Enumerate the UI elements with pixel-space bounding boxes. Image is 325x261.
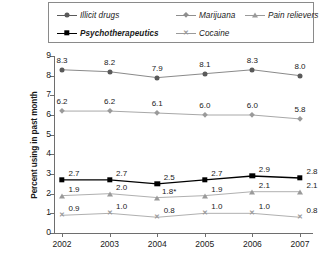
point-cocaine-2003: ✕ <box>106 209 114 217</box>
x-tick-label-2004: 2004 <box>148 239 167 249</box>
circle-glyph-icon <box>65 13 70 18</box>
square-point-icon <box>154 181 159 186</box>
diamond-point-icon <box>59 108 65 114</box>
point-illicit-drugs-2007 <box>296 72 304 80</box>
point-illicit-drugs-2002 <box>58 66 66 74</box>
triangle-point-icon <box>154 195 160 200</box>
point-illicit-drugs-2004 <box>153 74 161 82</box>
circle-point-icon <box>202 71 207 76</box>
data-label-illicit-drugs-2002: 8.3 <box>56 56 67 65</box>
square-marker-icon <box>57 27 77 39</box>
point-psychotherapeutics-2002 <box>58 176 66 184</box>
data-label-psychotherapeutics-2002: 2.7 <box>68 169 79 178</box>
triangle-point-icon <box>202 193 208 198</box>
diamond-point-icon <box>297 116 303 122</box>
x-tick-label-2007: 2007 <box>291 239 310 249</box>
data-label-pain-relievers-2003: 2.0 <box>116 183 127 192</box>
data-label-marijuana-2004: 6.1 <box>152 99 163 108</box>
point-pain-relievers-2006 <box>248 188 256 196</box>
x-tick-mark <box>62 233 63 237</box>
plot-area: Percent using in past month 0123456789 2… <box>54 56 312 233</box>
y-tick-label: 4 <box>37 148 51 158</box>
data-label-psychotherapeutics-2003: 2.7 <box>116 169 127 178</box>
circle-marker-icon <box>57 9 77 21</box>
legend-label: Cocaine <box>199 29 229 38</box>
legend-item-psychotherapeutics[interactable]: Psychotherapeutics <box>57 24 159 42</box>
point-cocaine-2005: ✕ <box>201 209 209 217</box>
point-pain-relievers-2005 <box>201 192 209 200</box>
point-cocaine-2004: ✕ <box>153 213 161 221</box>
y-tick-label: 8 <box>37 70 51 80</box>
data-label-psychotherapeutics-2006: 2.9 <box>259 165 270 174</box>
data-label-psychotherapeutics-2007: 2.8 <box>306 167 317 176</box>
chart-container: Illicit drugsMarijuanaPain relievers Psy… <box>0 0 325 261</box>
x-tick-label-2006: 2006 <box>243 239 262 249</box>
data-label-pain-relievers-2002: 1.9 <box>68 185 79 194</box>
y-tick-label: 9 <box>37 50 51 60</box>
triangle-point-icon <box>249 189 255 194</box>
data-label-marijuana-2005: 6.0 <box>199 101 210 110</box>
circle-point-icon <box>250 67 255 72</box>
diamond-point-icon <box>107 108 113 114</box>
diamond-glyph-icon <box>183 12 189 18</box>
circle-point-icon <box>298 73 303 78</box>
point-illicit-drugs-2006 <box>248 66 256 74</box>
legend-label: Marijuana <box>199 11 235 20</box>
data-label-pain-relievers-2005: 1.9 <box>211 185 222 194</box>
y-tick: 0 <box>54 233 58 234</box>
point-psychotherapeutics-2004 <box>153 180 161 188</box>
point-cocaine-2002: ✕ <box>58 211 66 219</box>
point-pain-relievers-2003 <box>106 190 114 198</box>
data-label-marijuana-2003: 6.2 <box>104 97 115 106</box>
chart-legend: Illicit drugsMarijuanaPain relievers Psy… <box>48 2 314 43</box>
x-point-icon: ✕ <box>59 212 65 218</box>
data-label-psychotherapeutics-2004: 2.5 <box>164 173 175 182</box>
triangle-glyph-icon <box>252 13 258 18</box>
legend-label: Illicit drugs <box>80 11 119 20</box>
point-marijuana-2007 <box>296 115 304 123</box>
square-point-icon <box>107 177 112 182</box>
circle-point-icon <box>60 67 65 72</box>
point-marijuana-2006 <box>248 111 256 119</box>
point-psychotherapeutics-2006 <box>248 172 256 180</box>
legend-item-pain-relievers[interactable]: Pain relievers <box>245 6 318 24</box>
x-point-icon: ✕ <box>297 214 303 220</box>
legend-item-marijuana[interactable]: Marijuana <box>176 6 235 24</box>
data-label-pain-relievers-2007: 2.1 <box>306 181 317 190</box>
point-psychotherapeutics-2007 <box>296 174 304 182</box>
x-marker-icon: ✕ <box>176 27 196 39</box>
y-tick-label: 5 <box>37 129 51 139</box>
x-tick-label-2005: 2005 <box>195 239 214 249</box>
square-point-icon <box>202 177 207 182</box>
x-tick-mark <box>300 233 301 237</box>
data-label-marijuana-2007: 5.8 <box>294 105 305 114</box>
legend-item-illicit-drugs[interactable]: Illicit drugs <box>57 6 119 24</box>
point-marijuana-2004 <box>153 109 161 117</box>
legend-item-cocaine[interactable]: ✕Cocaine <box>176 24 229 42</box>
diamond-point-icon <box>154 110 160 116</box>
data-label-illicit-drugs-2006: 8.3 <box>247 56 258 65</box>
x-axis-line <box>54 233 313 234</box>
y-tick-label: 0 <box>37 227 51 237</box>
square-point-icon <box>250 173 255 178</box>
x-tick-mark <box>205 233 206 237</box>
x-point-icon: ✕ <box>202 210 208 216</box>
point-psychotherapeutics-2005 <box>201 176 209 184</box>
x-point-icon: ✕ <box>249 210 255 216</box>
x-tick-mark <box>157 233 158 237</box>
square-point-icon <box>297 175 302 180</box>
y-tick-label: 7 <box>37 89 51 99</box>
x-tick-mark <box>252 233 253 237</box>
data-label-psychotherapeutics-2005: 2.7 <box>211 169 222 178</box>
data-label-pain-relievers-2004: 1.8* <box>162 187 176 196</box>
line-cocaine <box>62 213 300 217</box>
legend-label: Pain relievers <box>268 11 318 20</box>
point-pain-relievers-2007 <box>296 188 304 196</box>
square-glyph-icon <box>64 30 69 35</box>
line-marijuana <box>62 111 300 119</box>
x-tick-label-2002: 2002 <box>53 239 72 249</box>
x-point-icon: ✕ <box>107 210 113 216</box>
data-label-cocaine-2006: 1.0 <box>259 202 270 211</box>
data-label-illicit-drugs-2007: 8.0 <box>294 62 305 71</box>
point-marijuana-2005 <box>201 111 209 119</box>
